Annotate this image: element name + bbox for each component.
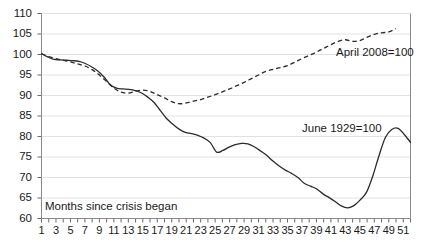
y-tick-label: 105: [2, 28, 32, 39]
x-axis-caption: Months since crisis began: [45, 200, 177, 212]
chart-container: 1101051009590858075706560 13579111315171…: [0, 0, 428, 250]
series-annotation-april-2008: April 2008=100: [336, 46, 414, 58]
y-tick-label: 70: [2, 172, 32, 183]
series-annotation-june-1929: June 1929=100: [302, 122, 382, 134]
y-tick-label: 95: [2, 69, 32, 80]
y-tick-label: 85: [2, 110, 32, 121]
y-tick-label: 60: [2, 213, 32, 224]
y-tick-label: 100: [2, 49, 32, 60]
x-axis-ticks: [42, 219, 411, 223]
y-tick-label: 110: [2, 8, 32, 19]
y-tick-label: 65: [2, 192, 32, 203]
y-tick-label: 80: [2, 131, 32, 142]
x-tick-label: 51: [393, 225, 413, 236]
y-tick-label: 90: [2, 90, 32, 101]
y-tick-label: 75: [2, 151, 32, 162]
y-axis-ticks: [38, 14, 42, 219]
